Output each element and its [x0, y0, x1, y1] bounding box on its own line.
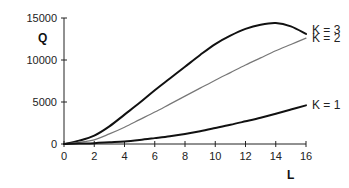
series-group	[64, 23, 306, 144]
series-line-k3	[64, 23, 306, 144]
legend: K = 3K = 2K = 1	[312, 23, 341, 112]
series-line-k2	[64, 38, 306, 144]
x-axis-title: L	[287, 168, 294, 182]
y-tick-label: 10000	[26, 54, 57, 66]
x-tick-label: 10	[209, 150, 221, 162]
axes: 0246810121416050001000015000	[26, 12, 312, 162]
x-tick-label: 16	[300, 150, 312, 162]
y-tick-label: 15000	[26, 12, 57, 24]
y-tick-label: 5000	[33, 96, 57, 108]
y-tick-label: 0	[51, 138, 57, 150]
legend-label-k1: K = 1	[312, 98, 341, 112]
line-chart: 0246810121416050001000015000 K = 3K = 2K…	[0, 0, 349, 188]
x-tick-label: 14	[270, 150, 282, 162]
x-tick-label: 2	[91, 150, 97, 162]
x-tick-label: 4	[121, 150, 127, 162]
x-tick-label: 0	[61, 150, 67, 162]
x-tick-label: 8	[182, 150, 188, 162]
x-tick-label: 6	[152, 150, 158, 162]
x-tick-label: 12	[239, 150, 251, 162]
y-axis-title: Q	[38, 31, 47, 45]
legend-label-k2: K = 2	[312, 31, 341, 45]
